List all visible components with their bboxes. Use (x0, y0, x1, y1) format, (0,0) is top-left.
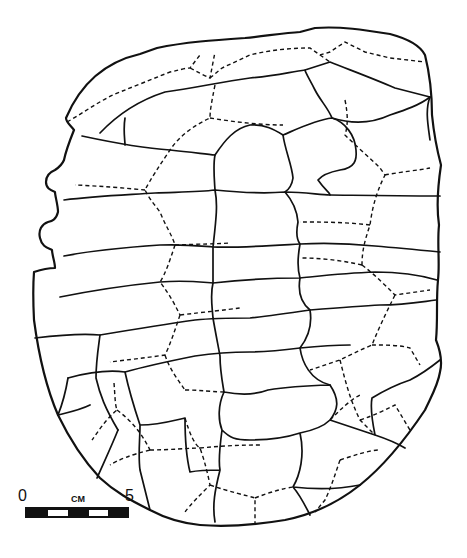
neural-sutures (75, 85, 283, 392)
scale-bar (25, 507, 129, 518)
posterior-sulci (125, 360, 440, 522)
scale-end-label: 5 (125, 487, 134, 505)
left-costal-sulcus (58, 118, 125, 430)
sulcus-row-2 (64, 190, 440, 200)
scale-unit-label: CM (71, 494, 85, 504)
carapace-outline (33, 27, 441, 525)
nuchal-sutures (67, 42, 425, 122)
sulcus-row-4 (60, 272, 437, 297)
sulcus-row-5 (35, 300, 436, 338)
figure-canvas: 0 CM 5 (0, 0, 467, 558)
scale-bar-white-segment-2 (89, 510, 108, 516)
carapace-drawing (0, 0, 467, 558)
marginal-inner-sulcus (58, 62, 430, 478)
scale-bar-frame (25, 507, 129, 518)
scale-bar-white-segment-1 (48, 510, 68, 516)
sulcus-row-6 (68, 345, 350, 378)
right-pleural-sulcus (305, 70, 356, 195)
scale-start-label: 0 (18, 487, 27, 505)
sulcus-row-3 (64, 243, 440, 256)
